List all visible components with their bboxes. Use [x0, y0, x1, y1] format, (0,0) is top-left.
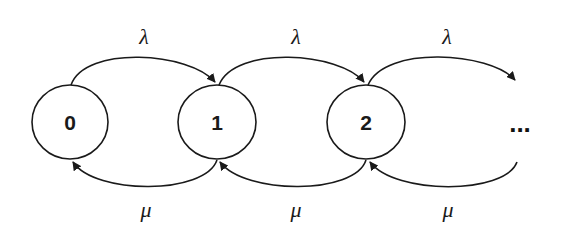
lambda-label-2-next: λ: [441, 24, 452, 49]
mu-label-2-1: μ: [289, 197, 301, 222]
backward-arrow-1-0: [73, 160, 217, 187]
state-2: 2: [327, 85, 405, 159]
state-1: 1: [178, 85, 256, 159]
continuation-ellipsis: ...: [509, 108, 531, 138]
lambda-label-0-1: λ: [138, 24, 149, 49]
mu-label-next-2: μ: [441, 197, 453, 222]
markov-chain-diagram: 0 1 2 ... λ λ λ μ μ μ: [0, 0, 575, 243]
forward-arrow-0-1: [71, 57, 215, 85]
state-1-label: 1: [211, 111, 223, 134]
lambda-label-1-2: λ: [290, 24, 301, 49]
backward-arrow-next-2: [370, 162, 517, 187]
state-2-label: 2: [360, 111, 372, 134]
mu-label-1-0: μ: [139, 197, 151, 222]
state-0-label: 0: [64, 111, 76, 134]
backward-arrow-2-1: [220, 160, 366, 187]
forward-arrow-1-2: [219, 57, 364, 85]
state-0: 0: [32, 85, 108, 159]
forward-arrow-2-next: [368, 57, 515, 85]
